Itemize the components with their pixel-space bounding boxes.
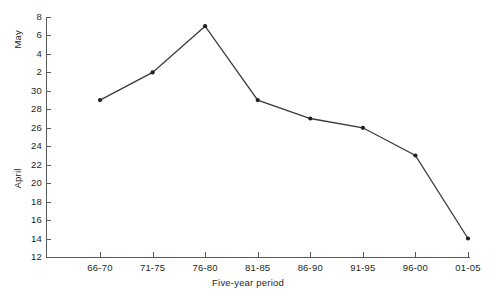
data-markers (98, 24, 470, 240)
data-point (203, 24, 207, 28)
data-point (466, 236, 470, 240)
line-chart: May April 121416182022242628302468 66-70… (0, 0, 496, 300)
data-point (361, 126, 365, 130)
data-line (100, 26, 468, 238)
data-point (98, 98, 102, 102)
data-point (256, 98, 260, 102)
data-point (308, 116, 312, 120)
x-axis-title: Five-year period (0, 277, 496, 288)
plot-area (0, 0, 496, 300)
data-point (413, 153, 417, 157)
data-point (151, 70, 155, 74)
